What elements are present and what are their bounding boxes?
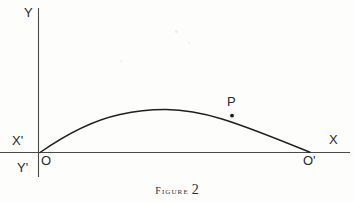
point-p-label: P xyxy=(227,95,236,108)
figure-2-container: Y X' Y' O O' X P Figure2 xyxy=(0,0,354,202)
coordinate-plot-svg xyxy=(0,0,354,202)
origin-label: O xyxy=(41,154,51,167)
caption-number: 2 xyxy=(192,182,199,197)
origin-prime-label: O' xyxy=(303,154,316,167)
figure-caption: Figure2 xyxy=(0,180,354,198)
y-axis-negative-label: Y' xyxy=(17,161,28,174)
caption-word: Figure xyxy=(155,185,189,196)
parabolic-arc-curve xyxy=(40,110,310,153)
x-axis-positive-label: X xyxy=(329,133,338,146)
point-p-marker xyxy=(230,114,234,118)
y-axis-positive-label: Y xyxy=(24,6,33,19)
x-axis-negative-label: X' xyxy=(12,134,23,147)
